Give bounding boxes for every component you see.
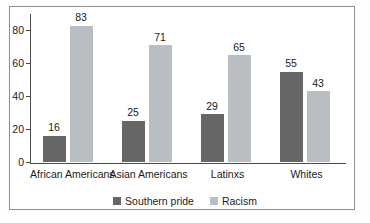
bar-racism[interactable]: 71	[149, 45, 172, 162]
y-tick-label: 60	[12, 58, 24, 69]
category-label: Latinxs	[188, 169, 267, 180]
bar-value-label: 55	[285, 58, 297, 69]
bar-racism[interactable]: 65	[228, 55, 251, 162]
bar-southern-pride[interactable]: 16	[43, 136, 66, 162]
y-tick-mark	[26, 129, 30, 130]
legend-swatch-icon	[210, 197, 218, 205]
y-tick-label: 0	[18, 157, 24, 168]
bar-value-label: 65	[233, 42, 245, 53]
y-tick-mark	[26, 96, 30, 97]
category-label: Whites	[267, 169, 346, 180]
y-tick-label: 40	[12, 91, 24, 102]
bar-value-label: 16	[48, 122, 60, 133]
legend-label: Racism	[222, 196, 257, 207]
bar-group: 2571	[122, 14, 172, 162]
legend-item-racism[interactable]: Racism	[210, 196, 257, 207]
bar-chart: 020406080 1683257129655543 African Ameri…	[0, 0, 370, 223]
bar-racism[interactable]: 83	[70, 26, 93, 162]
y-axis	[30, 14, 31, 164]
bar-group: 1683	[43, 14, 93, 162]
bar-racism[interactable]: 43	[307, 91, 330, 162]
y-tick-label: 20	[12, 124, 24, 135]
y-tick-mark	[26, 30, 30, 31]
y-tick-label: 80	[12, 25, 24, 36]
category-label: Asian Americans	[109, 169, 188, 180]
bar-value-label: 71	[154, 32, 166, 43]
bar-value-label: 83	[75, 12, 87, 23]
bar-southern-pride[interactable]: 29	[201, 114, 224, 162]
bar-value-label: 25	[127, 107, 139, 118]
x-axis	[30, 163, 346, 164]
legend-swatch-icon	[113, 197, 121, 205]
bar-value-label: 43	[312, 78, 324, 89]
category-label: African Americans	[30, 169, 109, 180]
legend-label: Southern pride	[125, 196, 194, 207]
bar-group: 2965	[201, 14, 251, 162]
bar-southern-pride[interactable]: 25	[122, 121, 145, 162]
bar-group: 5543	[280, 14, 330, 162]
bar-southern-pride[interactable]: 55	[280, 72, 303, 162]
chart-legend: Southern pride Racism	[0, 196, 370, 207]
legend-item-southern-pride[interactable]: Southern pride	[113, 196, 194, 207]
y-tick-mark	[26, 162, 30, 163]
y-tick-mark	[26, 63, 30, 64]
bar-value-label: 29	[206, 101, 218, 112]
